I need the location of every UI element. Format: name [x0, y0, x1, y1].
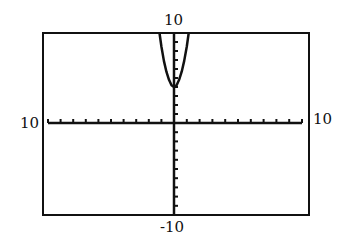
graph-canvas [0, 0, 346, 249]
axes [48, 33, 302, 215]
